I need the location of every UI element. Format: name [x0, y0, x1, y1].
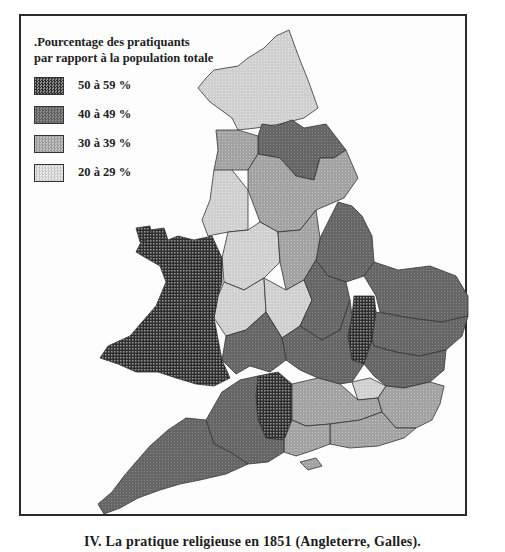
region-northumberland-cumberland — [198, 30, 318, 130]
legend-title-line2: par rapport à la population totale — [34, 50, 213, 66]
legend-label: 30 à 39 % — [78, 136, 131, 151]
legend-label: 50 à 59 % — [78, 78, 131, 93]
region-cheshire-stafford — [222, 222, 280, 290]
region-isle-of-wight — [300, 458, 322, 470]
legend-item-40-49: 40 à 49 % — [34, 105, 213, 124]
swatch-icon — [34, 106, 64, 124]
swatch-icon — [34, 164, 64, 182]
figure-caption: IV. La pratique religieuse en 1851 (Angl… — [0, 534, 505, 550]
swatch-icon — [34, 77, 64, 95]
legend-label: 40 à 49 % — [78, 107, 131, 122]
region-lincolnshire — [316, 202, 374, 282]
map-legend: .Pourcentage des pratiquants par rapport… — [34, 34, 213, 182]
legend-title-line1: .Pourcentage des pratiquants — [34, 34, 213, 50]
legend-item-20-29: 20 à 29 % — [34, 163, 213, 182]
swatch-icon — [34, 135, 64, 153]
legend-item-30-39: 30 à 39 % — [34, 134, 213, 153]
legend-label: 20 à 29 % — [78, 165, 131, 180]
legend-item-50-59: 50 à 59 % — [34, 76, 213, 95]
region-wales — [100, 228, 230, 386]
